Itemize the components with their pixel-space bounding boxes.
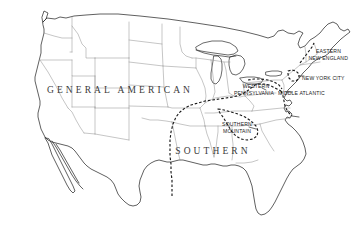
boundary-general-american-southern bbox=[170, 84, 281, 196]
border-ia-mo bbox=[163, 66, 196, 68]
border-in-oh bbox=[224, 62, 229, 93]
border-ga-fl bbox=[236, 160, 258, 163]
lake-superior bbox=[196, 41, 238, 55]
border-nd-sd bbox=[129, 40, 162, 44]
border-ok-tx bbox=[142, 118, 172, 122]
border-ar-la bbox=[172, 122, 205, 126]
border-id-mt bbox=[72, 26, 95, 58]
great-lakes-group bbox=[196, 41, 282, 84]
label-new-york-city: NEW YORK CITY bbox=[302, 75, 345, 81]
border-ga-sc bbox=[260, 124, 274, 151]
label-western-pennsylvania-line2: PENNSYLVANIA bbox=[234, 90, 275, 96]
lake-ontario bbox=[266, 71, 282, 76]
baja-inner-coast bbox=[56, 144, 79, 183]
national-outline-group bbox=[35, 11, 350, 215]
label-general-american: GENERAL AMERICAN bbox=[47, 85, 193, 95]
label-eastern-new-england-line1: EASTERN bbox=[316, 48, 341, 54]
label-western-pennsylvania-line1: WESTERN bbox=[243, 83, 270, 89]
label-southern: SOUTHERN bbox=[175, 146, 250, 156]
border-il-in bbox=[211, 60, 215, 98]
baja-peninsula-outline bbox=[45, 138, 75, 193]
leader-va-coast bbox=[292, 116, 299, 117]
border-nv-ca bbox=[40, 60, 68, 108]
border-in-mi bbox=[211, 60, 230, 62]
border-mn-wi bbox=[180, 27, 192, 58]
label-southern-mountain-line1: SOUTHERN bbox=[222, 121, 252, 127]
boundary-new-york-city bbox=[288, 70, 299, 81]
border-ar-ms bbox=[200, 108, 205, 126]
label-southern-mountain-line2: MOUNTAIN bbox=[223, 128, 251, 134]
label-eastern-new-england-line2: NEW ENGLAND bbox=[308, 55, 348, 61]
dialect-map-figure: GENERAL AMERICAN SOUTHERN EASTERN NEW EN… bbox=[0, 0, 352, 233]
us-dialect-map-svg: GENERAL AMERICAN SOUTHERN EASTERN NEW EN… bbox=[0, 0, 352, 233]
border-nm-mx bbox=[95, 134, 129, 140]
label-middle-atlantic: MIDDLE ATLANTIC bbox=[278, 90, 325, 96]
lake-huron bbox=[229, 55, 245, 75]
border-va-wv-ky bbox=[245, 96, 254, 111]
border-wa-or bbox=[44, 33, 72, 38]
baja-california-group bbox=[45, 138, 83, 193]
border-il-ky bbox=[205, 96, 234, 103]
border-ks-ok bbox=[129, 106, 168, 107]
map-labels-group: GENERAL AMERICAN SOUTHERN EASTERN NEW EN… bbox=[47, 48, 348, 156]
dialect-boundaries-group bbox=[170, 43, 314, 196]
border-az-ca bbox=[68, 108, 84, 133]
border-az-mx bbox=[84, 133, 95, 134]
border-mo-ar bbox=[168, 107, 200, 108]
border-wi-il bbox=[192, 58, 211, 60]
border-sd-ne bbox=[129, 62, 163, 66]
border-id-nv-ut bbox=[72, 60, 95, 76]
